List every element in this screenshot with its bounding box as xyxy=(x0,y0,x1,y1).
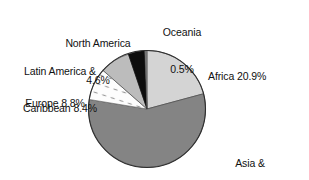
pie-chart-figure: North America 4.6% Oceania 0.5% Latin Am… xyxy=(0,0,309,180)
slice-label-asia-line1: Asia & xyxy=(193,157,307,169)
slice-label-europe-text: Europe 8.8% xyxy=(10,97,100,109)
slice-label-asia-middle-east: Asia & Middle East 56.7% xyxy=(193,133,307,180)
slice-label-africa: Africa 20.9% xyxy=(208,46,306,107)
slice-label-africa-text: Africa 20.9% xyxy=(208,70,306,82)
slice-label-oceania-line1: Oceania xyxy=(144,26,220,38)
slice-label-europe: Europe 8.8% xyxy=(10,73,100,134)
